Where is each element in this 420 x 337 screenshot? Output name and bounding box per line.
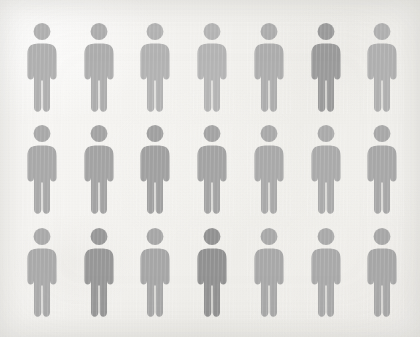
pictogram-head	[90, 228, 107, 245]
person-pictogram-shape	[77, 22, 121, 114]
person-pictogram-shape	[190, 22, 234, 114]
person-pictogram-shape	[190, 124, 234, 216]
person-pictogram-icon	[304, 227, 348, 319]
person-pictogram-shape	[20, 22, 64, 114]
person-pictogram-icon	[360, 22, 404, 114]
person-pictogram-icon	[20, 124, 64, 216]
person-pictogram-icon	[133, 227, 177, 319]
pictogram-body	[27, 44, 56, 112]
pictogram-body	[84, 146, 113, 214]
person-pictogram-icon	[190, 124, 234, 216]
person-pictogram-icon	[190, 22, 234, 114]
person-pictogram-icon	[20, 22, 64, 114]
person-pictogram-icon	[77, 124, 121, 216]
pictogram-infographic	[0, 0, 420, 337]
pictogram-head	[260, 125, 277, 142]
person-pictogram-icon	[20, 227, 64, 319]
pictogram-body	[197, 146, 226, 214]
person-pictogram-icon	[77, 22, 121, 114]
pictogram-body	[368, 44, 397, 112]
person-pictogram-shape	[20, 227, 64, 319]
pictogram-head	[374, 228, 391, 245]
pictogram-body	[84, 44, 113, 112]
pictogram-body	[254, 44, 283, 112]
person-pictogram-shape	[77, 124, 121, 216]
pictogram-body	[84, 249, 113, 317]
pictogram-head	[317, 228, 334, 245]
person-pictogram-shape	[360, 227, 404, 319]
pictogram-body	[311, 146, 340, 214]
pictogram-head	[147, 228, 164, 245]
person-pictogram-icon	[304, 124, 348, 216]
pictogram-body	[27, 249, 56, 317]
pictogram-body	[197, 249, 226, 317]
pictogram-head	[204, 228, 221, 245]
person-pictogram-icon	[133, 22, 177, 114]
person-pictogram-icon	[247, 227, 291, 319]
pictogram-head	[34, 125, 51, 142]
pictogram-head	[204, 125, 221, 142]
person-pictogram-shape	[304, 22, 348, 114]
pictogram-body	[27, 146, 56, 214]
person-pictogram-icon	[304, 22, 348, 114]
person-pictogram-shape	[360, 124, 404, 216]
person-pictogram-icon	[247, 22, 291, 114]
pictogram-head	[374, 23, 391, 40]
pictogram-body	[368, 249, 397, 317]
pictogram-body	[141, 44, 170, 112]
pictogram-head	[147, 125, 164, 142]
pictogram-body	[197, 44, 226, 112]
pictogram-head	[90, 125, 107, 142]
pictogram-head	[374, 125, 391, 142]
pictogram-body	[311, 44, 340, 112]
pictogram-head	[260, 23, 277, 40]
person-pictogram-shape	[77, 227, 121, 319]
person-pictogram-shape	[247, 227, 291, 319]
pictogram-body	[254, 146, 283, 214]
pictogram-head	[34, 23, 51, 40]
pictogram-body	[254, 249, 283, 317]
person-pictogram-icon	[190, 227, 234, 319]
pictogram-head	[317, 23, 334, 40]
person-pictogram-icon	[247, 124, 291, 216]
pictogram-head	[204, 23, 221, 40]
person-pictogram-shape	[247, 124, 291, 216]
person-pictogram-shape	[20, 124, 64, 216]
person-pictogram-shape	[133, 22, 177, 114]
person-pictogram-shape	[304, 227, 348, 319]
pictogram-head	[34, 228, 51, 245]
person-pictogram-shape	[133, 124, 177, 216]
person-pictogram-shape	[304, 124, 348, 216]
pictogram-body	[141, 249, 170, 317]
person-pictogram-icon	[360, 227, 404, 319]
person-pictogram-icon	[133, 124, 177, 216]
pictogram-head	[260, 228, 277, 245]
person-pictogram-icon	[360, 124, 404, 216]
pictogram-body	[311, 249, 340, 317]
pictogram-figure-layer	[0, 0, 420, 337]
pictogram-head	[317, 125, 334, 142]
person-pictogram-shape	[360, 22, 404, 114]
person-pictogram-icon	[77, 227, 121, 319]
pictogram-body	[141, 146, 170, 214]
pictogram-head	[147, 23, 164, 40]
person-pictogram-shape	[247, 22, 291, 114]
pictogram-body	[368, 146, 397, 214]
person-pictogram-shape	[133, 227, 177, 319]
pictogram-head	[90, 23, 107, 40]
person-pictogram-shape	[190, 227, 234, 319]
